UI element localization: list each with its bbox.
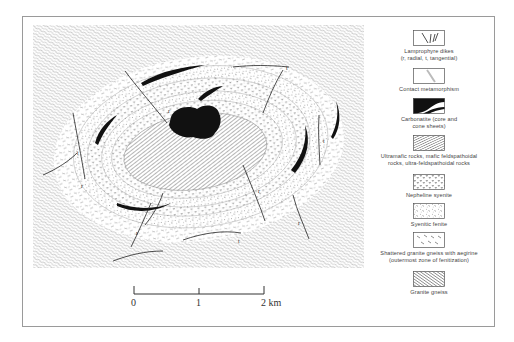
lamprophyre-dikes-swatch [413,30,445,46]
granite-gneiss-swatch [413,271,445,287]
legend-item-shattered-gneiss: Shattered granite gneiss with aegirine(o… [368,232,490,263]
scale-bar: 0 1 2 km [128,284,288,314]
legend-item-carbonatite: Carbonatite (core andcone sheets) [368,98,490,129]
scale-tick-label: 2 km [261,297,281,308]
scale-bar-line [128,284,288,298]
ultramafic-swatch [413,135,445,151]
carbonatite-core [169,106,221,139]
syenitic-fenite-swatch [413,203,445,219]
legend-label: Nepheline syenite [368,192,490,199]
svg-text:r: r [258,188,260,194]
legend-label: Syenitic fenite [368,221,490,228]
carbonatite-swatch [413,98,445,114]
svg-text:r: r [136,230,138,236]
scale-tick-label: 1 [196,297,201,308]
legend-item-lamprophyre-dikes: Lamprophyre dikes(r, radial, t, tangenti… [368,30,490,61]
contact-metamorphism-swatch [413,68,445,84]
geologic-map: r t t r t r r t r [33,25,364,268]
legend-label: Granite gneiss [368,289,490,296]
legend-item-contact-metamorphism: Contact metamorphism [368,68,490,93]
legend-label: Carbonatite (core andcone sheets) [368,116,490,129]
legend-item-syenitic-fenite: Syenitic fenite [368,203,490,228]
legend-item-granite-gneiss: Granite gneiss [368,271,490,296]
legend-label: Contact metamorphism [368,86,490,93]
legend-item-nepheline-syenite: Nepheline syenite [368,174,490,199]
svg-text:r: r [168,108,170,114]
shattered-gneiss-swatch [413,232,445,248]
nepheline-syenite-swatch [413,174,445,190]
legend-label: Lamprophyre dikes(r, radial, t, tangenti… [368,48,490,61]
scale-tick-label: 0 [131,297,136,308]
svg-text:r: r [298,220,300,226]
legend-item-ultramafic: Ultramafic rocks, mafic feldspathoidalro… [368,135,490,166]
legend-label: Ultramafic rocks, mafic feldspathoidalro… [368,153,490,166]
svg-text:r: r [81,183,83,189]
legend-label: Shattered granite gneiss with aegirine(o… [368,250,490,263]
